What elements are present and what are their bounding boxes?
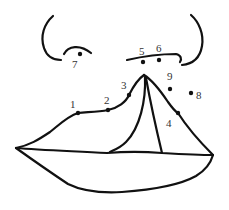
right-nasal-ala-curve bbox=[182, 15, 202, 65]
landmark-label-2: 2 bbox=[104, 94, 110, 106]
landmark-label-9: 9 bbox=[167, 70, 173, 82]
landmark-label-3: 3 bbox=[121, 79, 127, 91]
landmark-point-2 bbox=[106, 108, 110, 112]
landmark-label-7: 7 bbox=[72, 58, 78, 70]
landmark-point-7 bbox=[78, 52, 82, 56]
landmark-point-9 bbox=[168, 87, 172, 91]
landmark-label-4: 4 bbox=[166, 117, 172, 129]
landmark-point-3 bbox=[127, 93, 131, 97]
landmark-label-1: 1 bbox=[70, 98, 76, 110]
left-nasal-ala-curve bbox=[42, 16, 61, 60]
landmark-point-8 bbox=[189, 91, 193, 95]
landmark-label-5: 5 bbox=[139, 45, 145, 57]
landmark-point-1 bbox=[76, 111, 80, 115]
landmark-label-8: 8 bbox=[196, 89, 202, 101]
face-diagram: 1 2 3 4 5 6 7 8 9 bbox=[0, 0, 229, 210]
philtrum-left-curve bbox=[110, 77, 145, 152]
right-nostril-line bbox=[127, 54, 181, 62]
landmark-point-4 bbox=[176, 111, 180, 115]
landmark-point-6 bbox=[157, 58, 161, 62]
left-nostril-arc bbox=[64, 47, 91, 54]
landmark-point-5 bbox=[141, 60, 145, 64]
landmark-label-6: 6 bbox=[156, 42, 162, 54]
